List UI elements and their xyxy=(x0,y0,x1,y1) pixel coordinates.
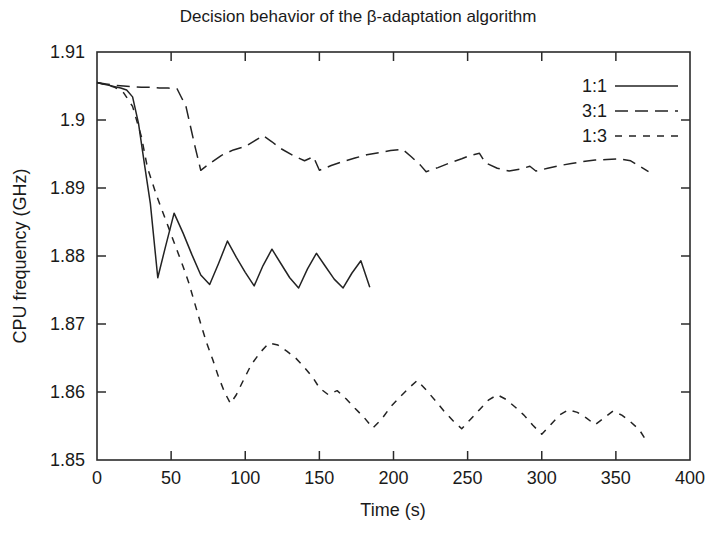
legend-label-1-1: 1:1 xyxy=(582,76,607,96)
x-tick-label-250: 250 xyxy=(453,468,483,488)
cpu-frequency-line-chart: Decision behavior of the β-adaptation al… xyxy=(0,0,719,546)
chart-title: Decision behavior of the β-adaptation al… xyxy=(180,7,537,26)
y-tick-label-1.89: 1.89 xyxy=(50,178,85,198)
y-tick-label-1.88: 1.88 xyxy=(50,246,85,266)
y-tick-label-1.9: 1.9 xyxy=(60,110,85,130)
x-tick-label-350: 350 xyxy=(601,468,631,488)
x-tick-label-100: 100 xyxy=(230,468,260,488)
legend-label-3-1: 3:1 xyxy=(582,101,607,121)
legend-label-1-3: 1:3 xyxy=(582,126,607,146)
x-tick-label-300: 300 xyxy=(527,468,557,488)
chart-figure: Decision behavior of the β-adaptation al… xyxy=(0,0,719,546)
y-tick-label-1.91: 1.91 xyxy=(50,42,85,62)
x-tick-label-150: 150 xyxy=(304,468,334,488)
y-tick-label-1.87: 1.87 xyxy=(50,314,85,334)
x-tick-label-200: 200 xyxy=(378,468,408,488)
x-axis-label: Time (s) xyxy=(360,500,425,520)
y-axis-label: CPU frequency (GHz) xyxy=(10,168,30,343)
x-tick-label-400: 400 xyxy=(675,468,705,488)
y-tick-label-1.85: 1.85 xyxy=(50,450,85,470)
y-tick-label-1.86: 1.86 xyxy=(50,382,85,402)
x-tick-label-50: 50 xyxy=(161,468,181,488)
chart-background xyxy=(0,0,719,546)
x-tick-label-0: 0 xyxy=(92,468,102,488)
